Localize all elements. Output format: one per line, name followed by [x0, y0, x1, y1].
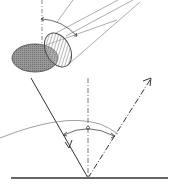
beam-line: [57, 0, 73, 22]
reflection-diagram: [0, 0, 174, 195]
incident-ray: [31, 78, 88, 178]
surface: [11, 177, 168, 179]
lower-angle-arc: [64, 129, 114, 136]
beam-line: [66, 0, 133, 36]
distribution-curve: [0, 120, 118, 138]
upper-angle-arc: [42, 19, 77, 36]
beam-line: [70, 2, 140, 63]
beam-line: [56, 0, 118, 33]
reflected-ray: [88, 80, 150, 178]
